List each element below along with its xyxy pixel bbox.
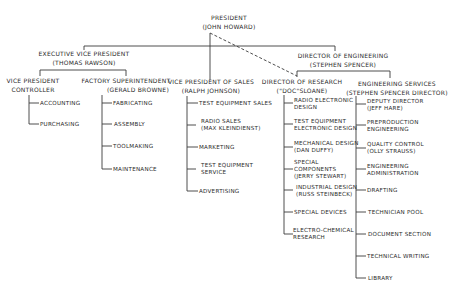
dept-label-2: ENGINEERING [367, 126, 419, 133]
vp-controller-subtitle: CONTROLLER [7, 86, 60, 95]
dept-label: RADIO ELECTRONIC [294, 97, 353, 104]
dept-mechanical-design: MECHANICAL DESIGN (DAN DUFFY) [294, 140, 359, 154]
president-name: (JOHN HOWARD) [202, 23, 255, 32]
dept-test-equipment-service: TEST EQUIPMENT SERVICE [201, 162, 253, 176]
dept-label: SPECIAL [294, 159, 346, 166]
dept-marketing: MARKETING [199, 144, 235, 151]
dept-label: DEPUTY DIRECTOR [367, 98, 424, 105]
dept-test-equipment-sales: TEST EQUIPMENT SALES [199, 100, 272, 107]
dept-toolmaking: TOOLMAKING [113, 143, 153, 150]
president-box: PRESIDENT (JOHN HOWARD) [202, 14, 255, 31]
executive-vp-box: EXECUTIVE VICE PRESIDENT (THOMAS RAWSON) [39, 50, 130, 67]
dept-head: (MAX KLEINDIENST) [201, 125, 261, 132]
president-title: PRESIDENT [202, 14, 255, 23]
dept-preproduction-engineering: PREPRODUCTION ENGINEERING [367, 119, 419, 133]
dept-label: TEST EQUIPMENT [294, 118, 357, 125]
dept-label: RADIO SALES [201, 118, 261, 125]
dept-head: (JEFF HARE) [367, 105, 424, 112]
dept-label: PREPRODUCTION [367, 119, 419, 126]
dept-head: (JERRY STEWART) [294, 173, 346, 180]
dept-special-devices: SPECIAL DEVICES [294, 209, 347, 216]
dept-label: LIBRARY [368, 275, 393, 282]
dept-label-2: COMPONENTS [294, 166, 346, 173]
dept-fabricating: FABRICATING [113, 100, 153, 107]
dept-label: ENGINEERING [367, 163, 419, 170]
dept-label: TECHNICAL WRITING [367, 253, 429, 260]
dept-label: TEST EQUIPMENT [201, 162, 253, 169]
dept-purchasing: PURCHASING [40, 121, 79, 128]
vp-sales-name: (RALPH JOHNSON) [168, 87, 254, 96]
dept-radio-electronic-design: RADIO ELECTRONIC DESIGN [294, 97, 353, 111]
dept-technical-writing: TECHNICAL WRITING [367, 253, 429, 260]
dept-label-2: RESEARCH [293, 234, 354, 241]
dept-library: LIBRARY [368, 275, 393, 282]
dept-drafting: DRAFTING [367, 187, 398, 194]
director-research-box: DIRECTOR OF RESEARCH ("DOC"SLOANE) [262, 78, 342, 95]
dept-head: (OLLY STRAUSS) [367, 148, 424, 155]
engineering-services-title: ENGINEERING SERVICES [346, 80, 448, 89]
dept-label: ADVERTISING [199, 188, 239, 195]
vp-sales-box: VICE PRESIDENT OF SALES (RALPH JOHNSON) [168, 78, 254, 95]
dept-label-2: ELECTRONIC DESIGN [294, 125, 357, 132]
dept-head: (DAN DUFFY) [294, 147, 359, 154]
dept-quality-control: QUALITY CONTROL (OLLY STRAUSS) [367, 141, 424, 155]
factory-superintendent-name: (GERALD BROWNE) [82, 86, 171, 95]
dept-special-components: SPECIAL COMPONENTS (JERRY STEWART) [294, 159, 346, 180]
dept-industrial-design: INDUSTRIAL DESIGN (RUSS STEINBECK) [296, 184, 357, 198]
dept-label: TECHNICIAN POOL [368, 209, 423, 216]
factory-superintendent-box: FACTORY SUPERINTENDENT (GERALD BROWNE) [82, 77, 171, 94]
vp-controller-box: VICE PRESIDENT CONTROLLER [7, 77, 60, 94]
dept-assembly: ASSEMBLY [114, 121, 145, 128]
dept-label: INDUSTRIAL DESIGN [296, 184, 357, 191]
dept-engineering-administration: ENGINEERING ADMINISTRATION [367, 163, 419, 177]
engineering-services-name: (STEPHEN SPENCER DIRECTOR) [346, 89, 448, 98]
dept-label: ELECTRO-CHEMICAL [293, 227, 354, 234]
vp-sales-title: VICE PRESIDENT OF SALES [168, 78, 254, 87]
dept-document-section: DOCUMENT SECTION [368, 231, 431, 238]
director-research-name: ("DOC"SLOANE) [262, 87, 342, 96]
dept-advertising: ADVERTISING [199, 188, 239, 195]
dept-label: TEST EQUIPMENT SALES [199, 100, 272, 107]
dept-technician-pool: TECHNICIAN POOL [368, 209, 423, 216]
dept-test-equipment-electronic-design: TEST EQUIPMENT ELECTRONIC DESIGN [294, 118, 357, 132]
director-engineering-title: DIRECTOR OF ENGINEERING [298, 52, 389, 61]
director-engineering-name: (STEPHEN SPENCER) [298, 61, 389, 70]
dept-label: SPECIAL DEVICES [294, 209, 347, 216]
dept-maintenance: MAINTENANCE [113, 166, 157, 173]
factory-superintendent-title: FACTORY SUPERINTENDENT [82, 77, 171, 86]
org-chart: PRESIDENT (JOHN HOWARD) EXECUTIVE VICE P… [0, 0, 456, 295]
director-engineering-box: DIRECTOR OF ENGINEERING (STEPHEN SPENCER… [298, 52, 389, 69]
vp-controller-title: VICE PRESIDENT [7, 77, 60, 86]
dept-label: DOCUMENT SECTION [368, 231, 431, 238]
dept-radio-sales: RADIO SALES (MAX KLEINDIENST) [201, 118, 261, 132]
dept-label: MECHANICAL DESIGN [294, 140, 359, 147]
dept-label-2: ADMINISTRATION [367, 170, 419, 177]
dept-label: DRAFTING [367, 187, 398, 194]
director-research-title: DIRECTOR OF RESEARCH [262, 78, 342, 87]
dept-accounting: ACCOUNTING [40, 100, 80, 107]
dept-electro-chemical-research: ELECTRO-CHEMICAL RESEARCH [293, 227, 354, 241]
dept-label-2: DESIGN [294, 104, 353, 111]
engineering-services-box: ENGINEERING SERVICES (STEPHEN SPENCER DI… [346, 80, 448, 97]
dept-label: MARKETING [199, 144, 235, 151]
dept-label: QUALITY CONTROL [367, 141, 424, 148]
dept-deputy-director: DEPUTY DIRECTOR (JEFF HARE) [367, 98, 424, 112]
executive-vp-name: (THOMAS RAWSON) [39, 59, 130, 68]
dept-head: (RUSS STEINBECK) [296, 191, 357, 198]
executive-vp-title: EXECUTIVE VICE PRESIDENT [39, 50, 130, 59]
dept-label-2: SERVICE [201, 169, 253, 176]
